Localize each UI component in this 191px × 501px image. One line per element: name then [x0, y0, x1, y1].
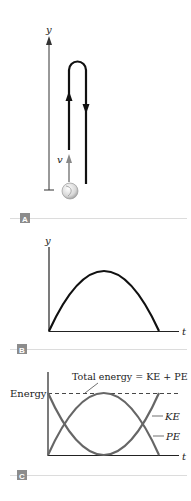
ke-curve [48, 393, 159, 455]
y-axis-arrow-icon [46, 36, 52, 45]
panel-label-b: B [19, 346, 25, 355]
velocity-label: v [57, 154, 63, 165]
velocity-arrow-icon [66, 154, 72, 163]
ball-icon [62, 183, 78, 199]
ball-trajectory [69, 62, 86, 185]
t-axis-label: t [182, 451, 187, 462]
height-curve [49, 271, 159, 331]
total-energy-label: Total energy = KE + PE [72, 371, 188, 382]
up-arrow-icon [66, 91, 73, 101]
panel-b: y t B [10, 235, 187, 355]
down-arrow-icon [83, 104, 90, 114]
y-axis-label: y [45, 24, 52, 35]
energy-axis-label: Energy [10, 388, 47, 399]
y-axis-label: y [44, 235, 51, 246]
panel-a: y v A [10, 24, 187, 224]
panel-c: t Energy Total energy = KE + PE KE PE C [10, 371, 188, 481]
panel-label-c: C [19, 472, 25, 481]
total-energy-leader [85, 383, 98, 393]
pe-label: PE [165, 431, 181, 442]
panel-label-a: A [22, 215, 28, 224]
ke-label: KE [164, 411, 180, 422]
t-axis-label: t [182, 326, 187, 337]
figure: y v A y t B t Energy [0, 0, 191, 501]
